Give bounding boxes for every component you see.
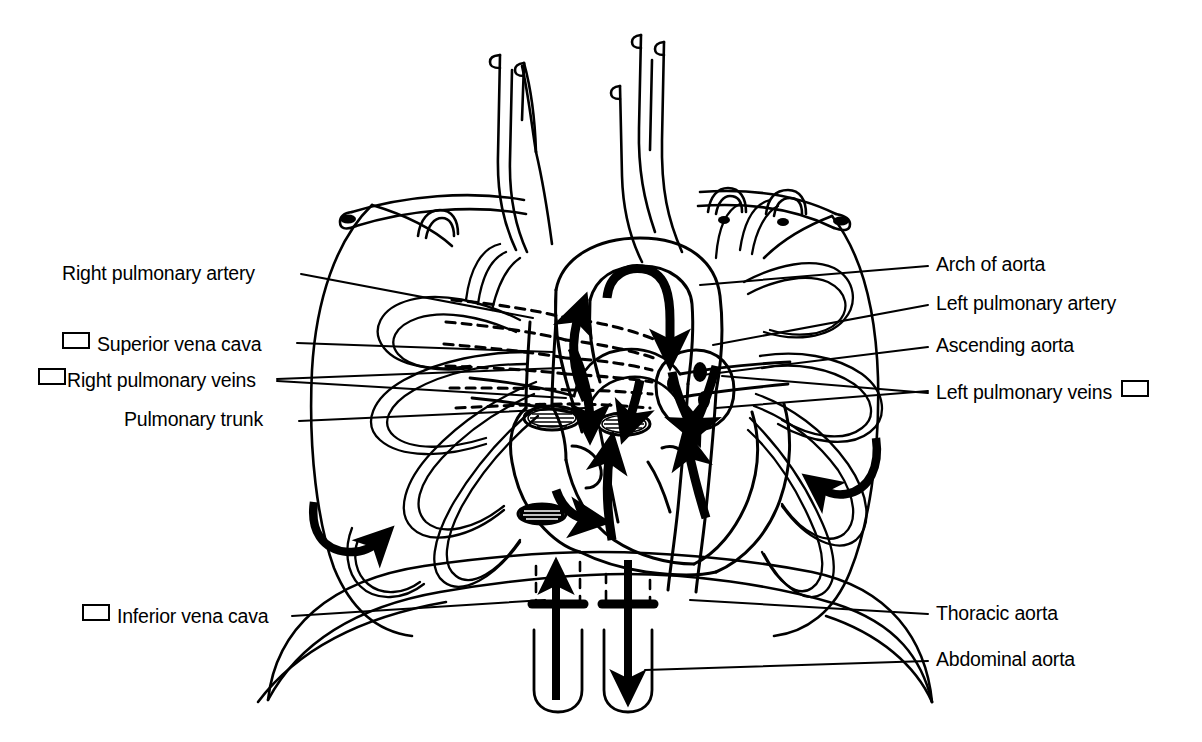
label-abdominal-aorta[interactable]: Abdominal aorta xyxy=(936,650,1075,670)
label-pulmonary-trunk[interactable]: Pulmonary trunk xyxy=(124,410,263,430)
label-superior-vena-cava[interactable]: Superior vena cava xyxy=(62,332,261,355)
label-right-pulmonary-veins[interactable]: Right pulmonary veins xyxy=(38,368,256,391)
label-thoracic-aorta-text: Thoracic aorta xyxy=(936,602,1058,624)
label-ascending-aorta-text: Ascending aorta xyxy=(936,334,1074,356)
label-left-pulmonary-veins[interactable]: Left pulmonary veins xyxy=(936,380,1149,403)
label-arch-of-aorta-text: Arch of aorta xyxy=(936,253,1045,275)
label-superior-vena-cava-text: Superior vena cava xyxy=(97,333,261,355)
label-arch-of-aorta[interactable]: Arch of aorta xyxy=(936,255,1045,275)
label-right-pulmonary-veins-text: Right pulmonary veins xyxy=(67,369,256,391)
label-pulmonary-trunk-text: Pulmonary trunk xyxy=(124,408,263,430)
label-inferior-vena-cava[interactable]: Inferior vena cava xyxy=(82,604,268,627)
arrow-pulmonary-trunk xyxy=(607,452,612,540)
checkbox-left-pulmonary-veins[interactable] xyxy=(1121,380,1149,397)
label-ascending-aorta[interactable]: Ascending aorta xyxy=(936,336,1074,356)
label-left-pulmonary-veins-text: Left pulmonary veins xyxy=(936,381,1112,403)
label-right-pulmonary-artery[interactable]: Right pulmonary artery xyxy=(62,264,255,284)
label-inferior-vena-cava-text: Inferior vena cava xyxy=(117,605,268,627)
label-right-pulmonary-artery-text: Right pulmonary artery xyxy=(62,262,255,284)
checkbox-superior-vena-cava[interactable] xyxy=(62,332,90,349)
label-left-pulmonary-artery-text: Left pulmonary artery xyxy=(936,292,1116,314)
label-abdominal-aorta-text: Abdominal aorta xyxy=(936,648,1075,670)
checkbox-right-pulmonary-veins[interactable] xyxy=(38,368,66,385)
label-thoracic-aorta[interactable]: Thoracic aorta xyxy=(936,604,1058,624)
label-left-pulmonary-artery[interactable]: Left pulmonary artery xyxy=(936,294,1116,314)
checkbox-inferior-vena-cava[interactable] xyxy=(82,604,110,621)
